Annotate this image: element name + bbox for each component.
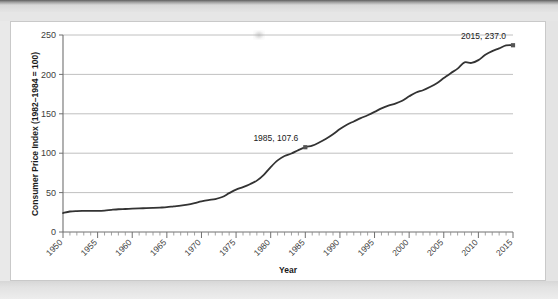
x-tick-label-1980: 1980: [252, 237, 273, 258]
data-point-label-2015: 2015, 237.0: [461, 31, 506, 41]
y-tick-label-250: 250: [41, 30, 56, 40]
x-tick-label-1955: 1955: [79, 237, 100, 258]
x-tick-label-2005: 2005: [425, 237, 446, 258]
scanned-page: 050100150200250 195019551960196519701975…: [0, 0, 558, 299]
x-tick-label-1995: 1995: [356, 237, 377, 258]
y-tick-label-100: 100: [41, 148, 56, 158]
y-tick-label-50: 50: [46, 188, 56, 198]
x-axis-major-ticks: [63, 232, 513, 238]
chart-canvas: 050100150200250 195019551960196519701975…: [0, 0, 558, 299]
x-tick-label-2015: 2015: [494, 237, 515, 258]
y-tick-label-150: 150: [41, 109, 56, 119]
y-axis-tick-labels: 050100150200250: [41, 30, 56, 237]
x-tick-label-1950: 1950: [44, 237, 65, 258]
annotation-labels: 1985, 107.62015, 237.0: [253, 31, 506, 143]
x-axis-title: Year: [279, 265, 298, 275]
cpi-line-chart: 050100150200250 195019551960196519701975…: [0, 0, 558, 299]
x-tick-label-1985: 1985: [286, 237, 307, 258]
x-tick-label-1960: 1960: [113, 237, 134, 258]
x-tick-label-2010: 2010: [459, 237, 480, 258]
x-tick-label-1990: 1990: [321, 237, 342, 258]
gridlines: [63, 35, 513, 193]
y-tick-label-200: 200: [41, 70, 56, 80]
x-tick-label-1970: 1970: [182, 237, 203, 258]
data-point-label-1985: 1985, 107.6: [253, 133, 298, 143]
x-tick-label-1965: 1965: [148, 237, 169, 258]
x-tick-label-1975: 1975: [217, 237, 238, 258]
x-axis-tick-labels: 1950195519601965197019751980198519901995…: [44, 237, 515, 258]
cpi-data-line: [63, 45, 513, 213]
y-axis-ticks: [59, 35, 63, 232]
x-tick-label-2000: 2000: [390, 237, 411, 258]
data-point-marker-2015: [511, 43, 515, 47]
data-point-marker-1985: [303, 145, 307, 149]
y-tick-label-0: 0: [51, 227, 56, 237]
y-axis-title: Consumer Price Index (1982–1984 = 100): [30, 52, 40, 216]
